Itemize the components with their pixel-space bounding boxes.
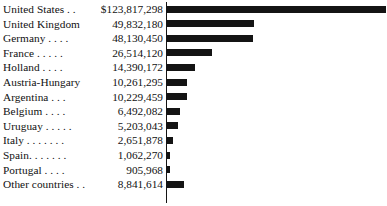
bar-track [167, 148, 387, 163]
country-label: Uruguay . . . . . [3, 119, 95, 134]
table-row: Portugal . . . .905,968 [0, 163, 387, 178]
value-label: 14,390,172 [95, 60, 163, 75]
bar [167, 64, 195, 71]
table-row: Belgium . . . .6,492,082 [0, 104, 387, 119]
country-label: Austria-Hungary [3, 75, 95, 90]
value-label: 2,651,878 [95, 133, 163, 148]
table-row: Argentina . . .10,229,459 [0, 90, 387, 105]
value-label: $123,817,298 [95, 2, 163, 17]
table-row: France . . . . .26,514,120 [0, 46, 387, 61]
bar [167, 166, 170, 173]
table-row: Spain. . . . . . .1,062,270 [0, 148, 387, 163]
country-label: Belgium . . . . [3, 104, 95, 119]
bar [167, 49, 212, 56]
bar [167, 122, 178, 129]
bar-track [167, 2, 387, 17]
bar [167, 79, 187, 86]
bar-track [167, 75, 387, 90]
table-row: United Kingdom49,832,180 [0, 17, 387, 32]
value-label: 10,229,459 [95, 90, 163, 105]
value-label: 5,203,043 [95, 119, 163, 134]
country-label: United States . . [3, 2, 95, 17]
value-label: 49,832,180 [95, 17, 163, 32]
value-label: 8,841,614 [95, 177, 163, 192]
bar [167, 137, 173, 144]
bar-track [167, 31, 387, 46]
bar [167, 108, 180, 115]
table-row: Italy . . . . . . .2,651,878 [0, 133, 387, 148]
bar-track [167, 133, 387, 148]
value-label: 48,130,450 [95, 31, 163, 46]
bar-track [167, 46, 387, 61]
bar [167, 181, 184, 188]
bar-track [167, 90, 387, 105]
table-row: Germany . . . .48,130,450 [0, 31, 387, 46]
bar-track [167, 17, 387, 32]
country-label: United Kingdom [3, 17, 95, 32]
country-label: Italy . . . . . . . [3, 133, 95, 148]
bar [167, 20, 254, 27]
bar [167, 35, 253, 42]
value-label: 6,492,082 [95, 104, 163, 119]
value-label: 905,968 [95, 163, 163, 178]
bar-track [167, 104, 387, 119]
bar-track [167, 177, 387, 192]
horizontal-bar-chart: United States . .$123,817,298United King… [0, 0, 387, 206]
table-row: Holland . . . .14,390,172 [0, 60, 387, 75]
bar [167, 93, 187, 100]
country-label: Argentina . . . [3, 90, 95, 105]
table-row: Other countries . .8,841,614 [0, 177, 387, 192]
bar [167, 152, 170, 159]
value-label: 1,062,270 [95, 148, 163, 163]
table-row: United States . .$123,817,298 [0, 2, 387, 17]
country-label: Portugal . . . . [3, 163, 95, 178]
table-row: Uruguay . . . . .5,203,043 [0, 119, 387, 134]
value-label: 26,514,120 [95, 46, 163, 61]
bar [167, 6, 386, 13]
bar-track [167, 60, 387, 75]
table-row: Austria-Hungary10,261,295 [0, 75, 387, 90]
value-label: 10,261,295 [95, 75, 163, 90]
bar-track [167, 163, 387, 178]
country-label: Holland . . . . [3, 60, 95, 75]
country-label: France . . . . . [3, 46, 95, 61]
country-label: Spain. . . . . . . [3, 148, 95, 163]
country-label: Germany . . . . [3, 31, 95, 46]
bar-track [167, 119, 387, 134]
country-label: Other countries . . [3, 177, 95, 192]
